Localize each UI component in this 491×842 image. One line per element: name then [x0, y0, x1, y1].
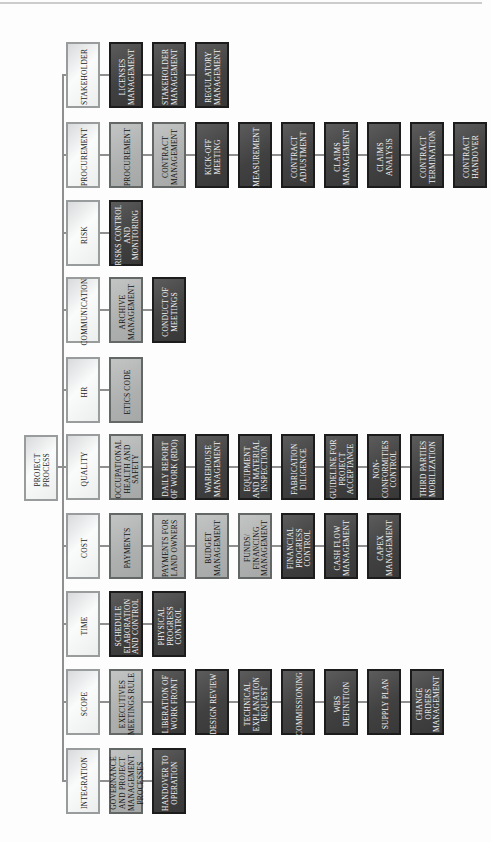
process-node-contract-termination: CONTRACT TERMINATION — [410, 122, 444, 188]
process-node-label: FUNDS/ FINANCING MANAGEMENT — [240, 515, 274, 581]
page-top-rule — [0, 2, 482, 4]
process-node-label: LIBERATION OF WORK FRONT — [154, 671, 188, 737]
category-node-procurement: PROCUREMENT — [66, 122, 100, 188]
process-node-etics-code: ETICS CODE — [109, 357, 143, 423]
connector-line — [62, 75, 64, 781]
process-node-funds-financing-management: FUNDS/ FINANCING MANAGEMENT — [238, 513, 272, 579]
process-node-schedule-elaboration-and-control: SCHEDULE ELABORATION AND CONTROL — [109, 591, 143, 657]
process-node-occupational-health-and-safety: OCCUPATIONAL HEALTH AND SAFETY — [109, 434, 143, 500]
process-node-label: DAILY REPORT OF WORK (RDO) — [154, 436, 188, 502]
root-node-project-process: PROJECT PROCESS — [24, 435, 58, 501]
category-node-label: COST — [68, 515, 102, 581]
process-node-technical-explanation-request: TECHNICAL EXPLANATION REQUEST — [238, 669, 272, 735]
process-node-supply-plan: SUPPLY PLAN — [367, 669, 401, 735]
process-node-label: DESIGN REVIEW — [197, 671, 231, 737]
category-node-integration: INTEGRATION — [66, 748, 100, 814]
process-node-budget-management: BUDGET MANAGEMENT — [195, 513, 229, 579]
process-node-label: SCHEDULE ELABORATION AND CONTROL — [111, 593, 145, 659]
process-node-guideline-for-project-acceptance: GUIDELINE FOR PROJECT ACCEPTANCE — [324, 434, 358, 500]
process-node-cash-flow-management: CASH FLOW MANAGEMENT — [324, 513, 358, 579]
process-node-label: WAREHOUSE MANAGEMENT — [197, 436, 231, 502]
process-node-label: FINANCIAL PROGRESS CONTROL — [283, 515, 317, 581]
process-node-label: CONTRACT HANDOVER — [455, 124, 489, 190]
category-node-label: TIME — [68, 593, 102, 659]
process-node-payments: PAYMENTS — [109, 513, 143, 579]
process-node-label: NON-CONFORMITIES CONTROL — [369, 436, 403, 502]
process-node-wbs-definition: WBS DEFINITION — [324, 669, 358, 735]
category-node-label: PROCUREMENT — [68, 124, 102, 190]
category-node-time: TIME — [66, 591, 100, 657]
category-node-label: INTEGRATION — [68, 750, 102, 816]
process-node-regulatory-management: REGULATORY MANAGEMENT — [195, 42, 229, 108]
category-node-risk: RISK — [66, 200, 100, 266]
process-node-label: STAKEHOLDER MANAGEMENT — [154, 44, 188, 110]
root-node-label: PROJECT PROCESS — [26, 437, 60, 503]
process-node-label: MEASUREMENT — [240, 124, 274, 190]
category-node-label: HR — [68, 359, 102, 425]
process-node-label: GOVERNANCE AND PROJECT MANAGEMENT PROCES… — [111, 750, 145, 816]
process-node-contract-adjustment: CONTRACT ADJUSTMENT — [281, 122, 315, 188]
process-node-label: OCCUPATIONAL HEALTH AND SAFETY — [111, 436, 145, 502]
process-node-payments-for-land-owners: PAYMENTS FOR LAND OWNERS — [152, 513, 186, 579]
process-node-label: RISKS CONTROL AND MONITORING — [111, 202, 145, 268]
process-node-label: PAYMENTS — [111, 515, 145, 581]
process-node-label: FABRICATION DILIGENCE — [283, 436, 317, 502]
process-node-label: THIRD PARTIES MOBILIZATION — [412, 436, 446, 502]
process-node-risks-control-and-monitoring: RISKS CONTROL AND MONITORING — [109, 200, 143, 266]
process-node-executives-meetings-rule: EXECUTIVES MEETINGS RULE — [109, 669, 143, 735]
process-node-label: COMMISSIONING — [283, 671, 317, 737]
category-node-label: QUALITY — [68, 436, 102, 502]
process-node-label: PAYMENTS FOR LAND OWNERS — [154, 515, 188, 581]
process-node-equipment-and-material-inspection: EQUIPMENT AND MATERIAL INSPECTION — [238, 434, 272, 500]
category-node-cost: COST — [66, 513, 100, 579]
process-node-third-parties-mobilization: THIRD PARTIES MOBILIZATION — [410, 434, 444, 500]
process-node-label: LICENSES MANAGEMENT — [111, 44, 145, 110]
process-node-label: SUPPLY PLAN — [369, 671, 403, 737]
category-node-label: SCOPE — [68, 671, 102, 737]
process-node-warehouse-management: WAREHOUSE MANAGEMENT — [195, 434, 229, 500]
process-node-fabrication-diligence: FABRICATION DILIGENCE — [281, 434, 315, 500]
process-node-measurement: MEASUREMENT — [238, 122, 272, 188]
category-node-quality: QUALITY — [66, 434, 100, 500]
process-node-contract-handover: CONTRACT HANDOVER — [453, 122, 487, 188]
process-node-stakeholder-management: STAKEHOLDER MANAGEMENT — [152, 42, 186, 108]
process-node-label: CLAIMS ANALYSIS — [369, 124, 403, 190]
process-node-label: REGULATORY MANAGEMENT — [197, 44, 231, 110]
process-node-label: EXECUTIVES MEETINGS RULE — [111, 671, 145, 737]
process-node-design-review: DESIGN REVIEW — [195, 669, 229, 735]
process-node-daily-report-of-work-rdo: DAILY REPORT OF WORK (RDO) — [152, 434, 186, 500]
process-node-label: CHANGE ORDERS MANAGEMENT — [412, 671, 446, 737]
process-node-label: WBS DEFINITION — [326, 671, 360, 737]
process-node-claims-analysis: CLAIMS ANALYSIS — [367, 122, 401, 188]
process-node-licenses-management: LICENSES MANAGEMENT — [109, 42, 143, 108]
process-node-label: CONTRACT TERMINATION — [412, 124, 446, 190]
process-node-label: ETICS CODE — [111, 359, 145, 425]
process-node-label: KICK-OFF MEETING — [197, 124, 231, 190]
process-node-liberation-of-work-front: LIBERATION OF WORK FRONT — [152, 669, 186, 735]
process-node-label: BUDGET MANAGEMENT — [197, 515, 231, 581]
process-node-label: GUIDELINE FOR PROJECT ACCEPTANCE — [326, 436, 360, 502]
process-node-governance-and-project-management-processes: GOVERNANCE AND PROJECT MANAGEMENT PROCES… — [109, 748, 143, 814]
process-node-label: CASH FLOW MANAGEMENT — [326, 515, 360, 581]
process-node-conduct-of-meetings: CONDUCT OF MEETINGS — [152, 277, 186, 343]
process-node-label: ARCHIVE MANAGEMENT — [111, 279, 145, 345]
process-node-label: CONTRACT MANAGEMENT — [154, 124, 188, 190]
process-node-label: CONTRACT ADJUSTMENT — [283, 124, 317, 190]
process-node-kick-off-meeting: KICK-OFF MEETING — [195, 122, 229, 188]
process-node-archive-management: ARCHIVE MANAGEMENT — [109, 277, 143, 343]
process-node-change-orders-management: CHANGE ORDERS MANAGEMENT — [410, 669, 444, 735]
process-node-label: HANDOVER TO OPERATION — [154, 750, 188, 816]
process-node-label: EQUIPMENT AND MATERIAL INSPECTION — [240, 436, 274, 502]
category-node-stakeholder: STAKEHOLDER — [66, 42, 100, 108]
process-node-financial-progress-control: FINANCIAL PROGRESS CONTROL — [281, 513, 315, 579]
process-node-claims-management: CLAIMS MANAGEMENT — [324, 122, 358, 188]
process-node-procurement: PROCUREMENT — [109, 122, 143, 188]
process-node-non-conformities-control: NON-CONFORMITIES CONTROL — [367, 434, 401, 500]
process-node-label: PHYSICAL PROGRESS CONTROL — [154, 593, 188, 659]
category-node-communication: COMMUNICATION — [66, 277, 100, 343]
process-node-commissioning: COMMISSIONING — [281, 669, 315, 735]
process-node-label: PROCUREMENT — [111, 124, 145, 190]
process-node-capex-management: CAPEX MANAGEMENT — [367, 513, 401, 579]
process-node-physical-progress-control: PHYSICAL PROGRESS CONTROL — [152, 591, 186, 657]
category-node-label: RISK — [68, 202, 102, 268]
